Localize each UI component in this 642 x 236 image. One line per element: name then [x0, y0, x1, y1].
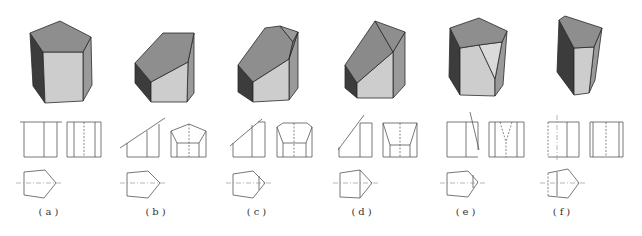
visible-edge — [548, 169, 568, 173]
visible-edge — [230, 119, 262, 146]
visible-edge — [277, 123, 283, 127]
figure-label-c: (c) — [247, 206, 269, 217]
visible-edge — [148, 183, 160, 198]
visible-edge — [233, 195, 253, 198]
orthographic-views-f — [540, 115, 623, 198]
orthographic-views-a — [16, 122, 101, 198]
visible-edge — [44, 183, 56, 198]
visible-edge — [447, 195, 468, 197]
visible-edge — [548, 196, 568, 198]
isometric-prism-f — [557, 16, 602, 95]
visible-edge — [340, 170, 360, 173]
visible-edge — [307, 123, 312, 127]
visible-edge — [189, 124, 206, 131]
figure-c — [226, 26, 312, 198]
visible-edge — [199, 131, 206, 143]
figure-a — [16, 21, 101, 198]
visible-edge — [360, 183, 372, 198]
face-front — [43, 52, 83, 103]
orthographic-views-b — [120, 118, 206, 198]
visible-edge — [24, 195, 44, 198]
figure-e — [440, 18, 524, 197]
hidden-edge — [506, 122, 512, 142]
visible-edge — [306, 127, 312, 143]
orthographic-views-e — [440, 112, 524, 197]
visible-edge — [127, 171, 148, 173]
hidden-edge — [500, 122, 506, 142]
isometric-prism-a — [30, 21, 92, 103]
visible-edge — [148, 171, 160, 183]
visible-edge — [568, 169, 579, 183]
visible-edge — [383, 123, 390, 145]
visible-edge — [45, 170, 56, 183]
visible-edge — [447, 171, 468, 173]
figure-label-e: (e) — [456, 206, 479, 217]
figure-b — [120, 33, 206, 198]
figure-label-b: (b) — [145, 206, 168, 217]
figure-label-a: (a) — [39, 206, 62, 217]
prism-section-diagram — [0, 0, 642, 236]
figure-f — [540, 16, 623, 198]
figure-label-d: (d) — [351, 206, 374, 217]
isometric-prism-d — [345, 21, 405, 98]
visible-edge — [127, 196, 148, 198]
visible-edge — [568, 183, 579, 198]
isometric-prism-b — [135, 33, 194, 102]
orthographic-views-d — [333, 115, 417, 198]
orthographic-views-c — [226, 119, 312, 198]
visible-edge — [171, 131, 177, 143]
figure-d — [333, 21, 417, 198]
visible-edge — [360, 170, 372, 183]
figure-label-f: (f) — [553, 206, 574, 217]
visible-edge — [171, 124, 189, 131]
visible-edge — [233, 171, 253, 174]
isometric-prism-c — [238, 26, 298, 102]
visible-edge — [24, 170, 45, 172]
visible-edge — [277, 127, 283, 143]
visible-edge — [410, 123, 417, 145]
isometric-prism-e — [449, 18, 507, 96]
visible-edge — [340, 197, 360, 198]
